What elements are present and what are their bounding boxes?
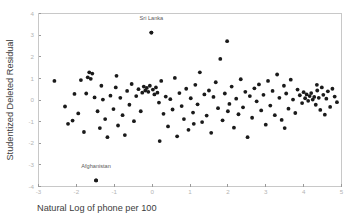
data-point [255, 99, 259, 103]
data-point [328, 105, 332, 109]
data-point [180, 104, 184, 108]
data-point [162, 112, 166, 116]
data-point [283, 126, 287, 130]
data-point [156, 91, 160, 95]
data-point [221, 118, 225, 122]
x-tick-label: -2 [74, 188, 80, 195]
data-point [277, 96, 281, 100]
data-point [123, 133, 127, 137]
data-point [191, 111, 195, 115]
data-point [96, 109, 100, 113]
data-point [182, 117, 186, 121]
data-point [264, 123, 268, 127]
data-point [234, 97, 238, 101]
data-point [227, 102, 231, 106]
data-point [71, 119, 75, 123]
data-point [166, 124, 170, 128]
data-point [282, 84, 286, 88]
data-point [130, 82, 134, 86]
data-point [225, 39, 229, 43]
data-point [314, 103, 318, 107]
data-point [309, 91, 313, 95]
data-point [303, 96, 307, 100]
data-point [90, 72, 94, 76]
data-point [315, 83, 319, 87]
scatter-plot-svg: -4-3-2-101234-3-2-1012345Sri LankaAfghan… [0, 0, 352, 217]
data-point [266, 79, 270, 83]
data-point [177, 91, 181, 95]
y-tick-label: -4 [28, 183, 34, 190]
data-point [114, 86, 118, 90]
data-point [223, 92, 227, 96]
data-point [214, 80, 218, 84]
y-axis-title: Studentized Deleted Residual [5, 39, 15, 160]
x-tick-label: 4 [302, 188, 306, 195]
x-tick-label: 0 [150, 188, 154, 195]
x-tick-label: 2 [226, 188, 230, 195]
data-point [93, 96, 97, 100]
data-point [320, 86, 324, 90]
data-point [275, 73, 279, 77]
data-point [82, 130, 86, 134]
data-point [159, 79, 163, 83]
data-point [212, 95, 216, 99]
data-point [79, 78, 83, 82]
data-point [127, 103, 131, 107]
data-point [257, 83, 261, 87]
data-point [202, 92, 206, 96]
data-point [146, 90, 150, 94]
data-point [154, 86, 158, 90]
data-point [252, 86, 256, 90]
data-point [232, 126, 236, 130]
data-point [243, 90, 247, 94]
data-point [262, 93, 266, 97]
data-point [280, 118, 284, 122]
y-tick-label: 3 [31, 31, 35, 38]
data-point [196, 102, 200, 106]
data-point [291, 98, 295, 102]
data-point [89, 77, 93, 81]
data-point [246, 135, 250, 139]
annotation-label: Sri Lanka [140, 15, 165, 21]
data-point [63, 105, 67, 109]
data-point [331, 87, 335, 91]
data-point [198, 70, 202, 74]
data-point [112, 107, 116, 111]
data-point [66, 122, 70, 126]
data-point [318, 108, 322, 112]
data-point [171, 108, 175, 112]
data-point [209, 131, 213, 135]
data-point [218, 57, 222, 61]
data-point [205, 114, 209, 118]
data-point [139, 109, 143, 113]
data-point [53, 79, 57, 83]
scatter-plot-figure: -4-3-2-101234-3-2-1012345Sri LankaAfghan… [0, 0, 352, 217]
data-point [289, 78, 293, 82]
data-point [148, 84, 152, 88]
data-point [98, 126, 102, 130]
data-point [125, 89, 129, 93]
data-point [237, 112, 241, 116]
data-point-annotated [94, 179, 98, 183]
data-point [115, 74, 119, 78]
data-point [99, 84, 103, 88]
data-point-annotated [149, 31, 153, 35]
x-tick-label: -1 [111, 188, 117, 195]
data-point [184, 87, 188, 91]
data-point [287, 107, 291, 111]
data-point [239, 77, 243, 81]
data-point [216, 106, 220, 110]
data-point [268, 104, 272, 108]
data-point [317, 96, 321, 100]
data-point [158, 139, 162, 143]
data-point [193, 83, 197, 87]
data-point [250, 116, 254, 120]
data-point [306, 99, 310, 103]
data-point [241, 105, 245, 109]
y-tick-label: 1 [31, 75, 35, 82]
data-point [118, 96, 122, 100]
x-tick-label: 3 [264, 188, 268, 195]
data-point [207, 89, 211, 93]
data-point [76, 112, 80, 116]
data-point [226, 109, 230, 113]
